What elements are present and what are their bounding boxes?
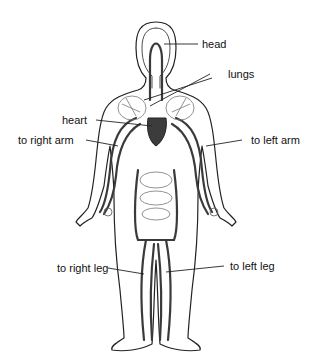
label-right-leg: to right leg (57, 262, 108, 274)
body-outline (76, 22, 236, 351)
label-left-leg: to left leg (230, 260, 275, 272)
label-right-arm: to right arm (18, 134, 74, 146)
body-figure (0, 0, 313, 362)
circulatory-diagram: head lungs heart to right arm to left ar… (0, 0, 313, 362)
heart-organ (147, 118, 166, 146)
label-head: head (202, 38, 226, 50)
head-vessel (150, 44, 162, 101)
label-lungs: lungs (228, 68, 254, 80)
label-left-arm: to left arm (251, 134, 300, 146)
left-leg-vessel (166, 240, 171, 340)
lungs-organ (118, 96, 194, 120)
label-heart: heart (62, 114, 87, 126)
digestive-organs (140, 172, 172, 220)
right-leg-vessel (141, 240, 146, 340)
